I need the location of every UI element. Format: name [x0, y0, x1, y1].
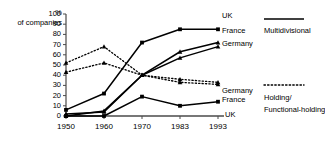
legend-top-label-france: France — [222, 26, 245, 35]
legend-bottom-label-uk: UK — [225, 110, 235, 119]
x-tick-label: 1983 — [163, 123, 197, 131]
y-tick-label: 60 — [39, 51, 61, 59]
data-point — [102, 44, 107, 48]
series-germany-holding — [64, 44, 221, 86]
data-point — [140, 95, 144, 99]
legend-bottom-label-france: France — [222, 95, 245, 104]
y-tick-label: 100 — [39, 10, 61, 18]
x-tick-label: 1960 — [87, 123, 121, 131]
y-tick-label: 90 — [39, 20, 61, 28]
x-tick-label: 1950 — [49, 123, 83, 131]
series-line — [66, 47, 218, 85]
legend-solid-line-sample — [264, 17, 304, 21]
y-tick-label: 80 — [39, 30, 61, 38]
series-france-multidivisional — [64, 40, 221, 118]
data-point — [178, 104, 182, 108]
chart-canvas — [66, 14, 218, 116]
legend-bottom-title-line1: Holding/ — [264, 93, 292, 103]
y-tick-label: 10 — [39, 102, 61, 110]
chart-figure: % of companies 0102030405060708090100 19… — [0, 0, 325, 143]
data-point — [178, 27, 182, 31]
data-point — [140, 41, 144, 45]
y-tick-label: 40 — [39, 71, 61, 79]
legend-bottom-label-germany: Germany — [222, 86, 253, 95]
y-tick-label: 70 — [39, 41, 61, 49]
plot-area — [66, 14, 218, 116]
series-line — [66, 63, 218, 82]
y-tick-label: 50 — [39, 61, 61, 69]
data-point — [216, 100, 220, 104]
y-tick-label: 30 — [39, 81, 61, 89]
legend-top-label-germany: Germany — [222, 39, 253, 48]
legend-bottom-title-line2: Functional-holding — [264, 105, 325, 115]
data-point — [64, 114, 68, 118]
series-uk-holding — [64, 95, 220, 118]
series-uk-multidivisional — [64, 27, 220, 111]
legend-top-title: Multidivisional — [264, 26, 311, 36]
legend-top-label-uk: UK — [222, 11, 232, 20]
x-tick-label: 1993 — [201, 123, 235, 131]
data-point — [102, 114, 106, 118]
legend-dotted-line-sample — [264, 83, 304, 87]
y-tick-label: 20 — [39, 92, 61, 100]
data-point — [216, 27, 220, 31]
series-france-holding — [64, 61, 221, 85]
x-tick-label: 1970 — [125, 123, 159, 131]
data-point — [64, 108, 68, 112]
data-point — [102, 92, 106, 96]
y-tick-label: 0 — [39, 112, 61, 120]
